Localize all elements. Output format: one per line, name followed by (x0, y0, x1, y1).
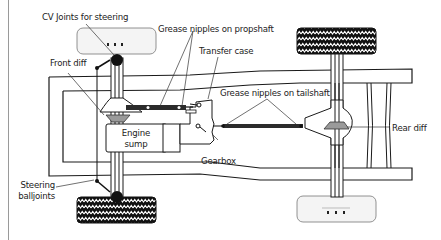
label-steering-1: Steering (20, 180, 55, 190)
label-gearbox: Gearbox (201, 156, 236, 166)
wheel-rear-left (297, 28, 376, 54)
engine-sump-label-2: sump (125, 139, 148, 149)
label-cv-joints: CV Joints for steering (42, 12, 128, 22)
label-grease-tailshaft: Grease nipples on tailshaft (220, 88, 330, 98)
label-steering-2: balljoints (18, 191, 56, 201)
label-rear-diff: Rear diff (392, 123, 428, 133)
ghost-wheel-rear-right (297, 196, 376, 222)
engine-sump: Engine sump (106, 124, 180, 152)
tailshaft (223, 124, 303, 128)
engine-sump-label-1: Engine (122, 128, 150, 138)
label-grease-propshaft: Grease nipples on propshaft (158, 24, 274, 34)
label-front-diff: Front diff (50, 58, 88, 68)
cv-joint-bottom (111, 191, 123, 203)
rear-crossmember (367, 83, 391, 168)
ghost-wheel-front-left (77, 28, 156, 54)
chassis-diagram: Engine sump (0, 0, 441, 240)
cv-joint-top (111, 54, 123, 66)
label-transfer-case: Transfer case (198, 46, 253, 56)
front-diff (106, 115, 130, 122)
front-propshaft (126, 105, 186, 110)
